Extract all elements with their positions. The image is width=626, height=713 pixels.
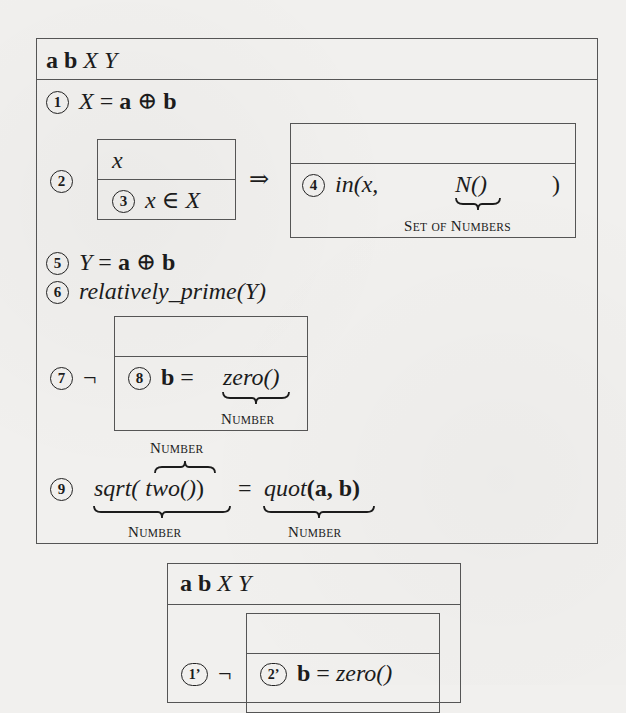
step-number-badge: 4 bbox=[302, 174, 325, 197]
equals-sign: = bbox=[100, 88, 114, 114]
step-number-badge: 5 bbox=[46, 252, 69, 275]
negated-box-divider bbox=[115, 356, 307, 357]
equals-sign: = bbox=[316, 660, 330, 686]
step-8-lhs: b bbox=[161, 364, 174, 390]
label-part: S bbox=[404, 218, 413, 234]
step-9-equals: = bbox=[238, 476, 252, 500]
step-number-badge: 8 bbox=[128, 367, 151, 390]
antecedent-header-var: x bbox=[112, 148, 123, 172]
step-number-badge: 6 bbox=[46, 281, 69, 304]
step-4-func: in bbox=[335, 171, 354, 197]
step-number-badge: 2’ bbox=[260, 663, 287, 686]
sqrt-func: sqrt( bbox=[94, 475, 139, 501]
header-italic-vars: X Y bbox=[217, 570, 251, 596]
step-5-var-b: b bbox=[162, 249, 175, 275]
step-9-overbrace-label: Number bbox=[150, 440, 204, 457]
bottom-negated-divider bbox=[247, 653, 439, 654]
label-part: umber bbox=[299, 527, 341, 539]
quot-args: (a, b) bbox=[307, 475, 360, 501]
bottom-header-divider bbox=[168, 604, 460, 605]
header-bold-vars: a b bbox=[46, 47, 77, 73]
overbrace-step-9 bbox=[154, 460, 216, 474]
step-number-badge: 9 bbox=[50, 478, 73, 501]
header-bold-vars: a b bbox=[180, 570, 211, 596]
step-7: 7 ¬ bbox=[50, 365, 97, 390]
equals-sign: = bbox=[180, 364, 194, 390]
step-1-prime: 1’ ¬ bbox=[181, 661, 232, 686]
step-6: 6 relatively_prime(Y) bbox=[46, 279, 266, 304]
label-part: umber bbox=[161, 443, 203, 455]
bottom-header-vars: a b X Y bbox=[180, 571, 251, 595]
step-8-rhs: zero() bbox=[223, 365, 279, 389]
step-5-lhs: Y bbox=[79, 249, 92, 275]
step-8-rhs-label: Number bbox=[221, 411, 275, 428]
two-func: two() bbox=[145, 475, 196, 501]
step-2-prime: 2’ b = zero() bbox=[260, 661, 392, 686]
step-9-rhs: quot(a, b) bbox=[264, 476, 360, 500]
step-number-badge: 1 bbox=[46, 91, 69, 114]
step-6-predicate: relatively_prime bbox=[79, 278, 237, 304]
step-9-rhs-label: Number bbox=[288, 524, 342, 541]
step-8: 8 b = bbox=[128, 365, 194, 390]
step-4: 4 in(x, bbox=[302, 172, 378, 197]
step-1-var-a: a bbox=[119, 88, 131, 114]
step-4-open: (x, bbox=[354, 171, 379, 197]
step-9-lhs-label: Number bbox=[128, 524, 182, 541]
consequent-divider bbox=[291, 163, 575, 164]
oplus-operator: ⊕ bbox=[137, 88, 157, 114]
step-2-prime-rhs: zero() bbox=[336, 660, 392, 686]
label-part: N bbox=[150, 440, 161, 456]
step-5: 5 Y = a ⊕ b bbox=[46, 250, 175, 275]
oplus-operator: ⊕ bbox=[136, 249, 156, 275]
step-2-prime-lhs: b bbox=[297, 660, 310, 686]
label-part: umber bbox=[139, 527, 181, 539]
step-2-label: 2 bbox=[50, 168, 77, 193]
step-4-arg-label: Set of Numbers bbox=[404, 218, 511, 235]
negation-symbol: ¬ bbox=[83, 364, 97, 390]
header-italic-vars: X Y bbox=[83, 47, 117, 73]
label-part: of bbox=[431, 221, 446, 233]
step-6-arg: (Y) bbox=[237, 278, 266, 304]
step-number-badge: 7 bbox=[50, 367, 73, 390]
implies-arrow: ⇒ bbox=[249, 167, 269, 191]
antecedent-divider bbox=[98, 179, 235, 180]
step-1-lhs: X bbox=[79, 88, 94, 114]
underbrace-step-8 bbox=[222, 391, 290, 405]
step-number-badge: 1’ bbox=[181, 663, 208, 686]
step-5-var-a: a bbox=[118, 249, 130, 275]
step-1-var-b: b bbox=[163, 88, 176, 114]
label-part: N bbox=[451, 218, 462, 234]
step-9-lhs: sqrt( two()) bbox=[94, 476, 204, 500]
equals-sign: = bbox=[98, 249, 112, 275]
step-number-badge: 3 bbox=[112, 190, 135, 213]
step-3: 3 x ∈ X bbox=[112, 188, 200, 213]
label-part: N bbox=[128, 524, 139, 540]
underbrace-step-9-lhs bbox=[93, 505, 231, 519]
underbrace-step-9-rhs bbox=[263, 505, 375, 519]
label-part: umbers bbox=[462, 221, 511, 233]
top-header-vars: a b X Y bbox=[46, 48, 117, 72]
step-4-arg: N() bbox=[455, 172, 487, 196]
step-9: 9 bbox=[50, 476, 77, 501]
close-paren: ) bbox=[196, 475, 204, 501]
step-number-badge: 2 bbox=[50, 170, 73, 193]
underbrace-step-4 bbox=[455, 197, 501, 211]
negation-symbol: ¬ bbox=[218, 660, 232, 686]
label-part: umber bbox=[232, 414, 274, 426]
step-3-formula: x ∈ X bbox=[145, 187, 200, 213]
step-4-close: ) bbox=[552, 172, 560, 196]
quot-func: quot bbox=[264, 475, 307, 501]
label-part: N bbox=[221, 411, 232, 427]
step-1: 1 X = a ⊕ b bbox=[46, 89, 177, 114]
label-part: N bbox=[288, 524, 299, 540]
label-part: et bbox=[413, 221, 428, 233]
top-header-divider bbox=[37, 79, 597, 80]
